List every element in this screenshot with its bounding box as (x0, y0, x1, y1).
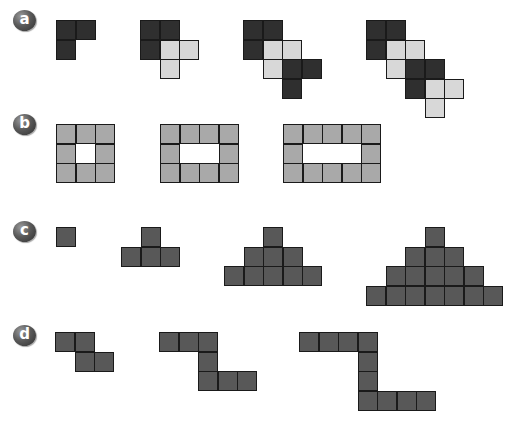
tile-square (180, 124, 200, 144)
tile-square (219, 144, 239, 164)
tile-square (263, 266, 283, 286)
tile-square (159, 332, 179, 352)
tile-square (76, 163, 96, 183)
tile-square (56, 124, 76, 144)
pattern-b-label-badge: b (13, 114, 36, 135)
tile-square (483, 286, 503, 306)
tile-square (425, 59, 445, 79)
tile-square (263, 247, 283, 267)
tile-square (444, 247, 464, 267)
tile-square (366, 286, 386, 306)
tile-square (263, 227, 283, 247)
tile-square (425, 79, 445, 99)
tile-square (160, 247, 180, 267)
tile-square (218, 371, 238, 391)
tile-square (55, 332, 75, 352)
tile-square (160, 40, 180, 60)
tile-square (302, 59, 322, 79)
tile-square (224, 266, 244, 286)
tile-square (95, 163, 115, 183)
tile-square (282, 40, 302, 60)
tile-square (283, 124, 303, 144)
tile-square (282, 79, 302, 99)
tile-square (405, 247, 425, 267)
tile-square (464, 286, 484, 306)
tile-square (425, 286, 445, 306)
tile-square (358, 332, 378, 352)
tile-square (425, 247, 445, 267)
tile-square (444, 79, 464, 99)
tile-square (358, 371, 378, 391)
tile-square (76, 124, 96, 144)
tile-square (95, 124, 115, 144)
tile-square (366, 20, 386, 40)
tile-square (338, 332, 358, 352)
tile-square (75, 332, 95, 352)
tile-square (425, 98, 445, 118)
tile-square (121, 247, 141, 267)
tile-square (386, 40, 406, 60)
pattern-d-label-badge: d (13, 325, 36, 346)
tile-square (76, 20, 96, 40)
tile-square (416, 391, 436, 411)
tile-square (160, 124, 180, 144)
tile-square (405, 286, 425, 306)
tile-square (386, 59, 406, 79)
tile-square (302, 266, 322, 286)
tile-square (140, 40, 160, 60)
tile-square (180, 163, 200, 183)
tile-square (94, 352, 114, 372)
tile-square (160, 59, 180, 79)
tile-square (405, 266, 425, 286)
tile-square (425, 266, 445, 286)
tile-square (303, 124, 323, 144)
tile-square (386, 286, 406, 306)
tile-square (141, 247, 161, 267)
tile-square (444, 266, 464, 286)
tile-square (464, 266, 484, 286)
tile-square (179, 332, 199, 352)
pattern-a-label-badge: a (13, 10, 36, 31)
tile-square (303, 163, 323, 183)
tile-square (244, 247, 264, 267)
tile-square (160, 144, 180, 164)
tile-square (237, 371, 257, 391)
tile-square (56, 40, 76, 60)
tile-square (198, 352, 218, 372)
tile-square (56, 144, 76, 164)
tile-square (361, 163, 381, 183)
tile-square (361, 144, 381, 164)
tile-square (319, 332, 339, 352)
pattern-c-label-badge: c (13, 221, 36, 242)
tile-square (56, 163, 76, 183)
tile-square (263, 40, 283, 60)
tile-square (160, 163, 180, 183)
tile-square (95, 144, 115, 164)
tile-square (342, 163, 362, 183)
tile-square (198, 332, 218, 352)
tile-square (342, 124, 362, 144)
tile-square (219, 163, 239, 183)
tile-square (377, 391, 397, 411)
tile-square (141, 227, 161, 247)
tile-square (199, 163, 219, 183)
tile-square (397, 391, 417, 411)
tile-square (405, 59, 425, 79)
tile-square (199, 124, 219, 144)
tile-square (75, 352, 95, 372)
tile-square (322, 124, 342, 144)
tile-square (322, 163, 342, 183)
tile-square (56, 227, 76, 247)
tile-square (386, 20, 406, 40)
tile-square (263, 59, 283, 79)
tile-square (263, 20, 283, 40)
tile-square (283, 144, 303, 164)
tile-square (219, 124, 239, 144)
tile-square (425, 227, 445, 247)
tile-square (405, 79, 425, 99)
tile-square (299, 332, 319, 352)
tile-square (282, 59, 302, 79)
tile-square (444, 286, 464, 306)
tile-square (386, 266, 406, 286)
tile-square (160, 20, 180, 40)
